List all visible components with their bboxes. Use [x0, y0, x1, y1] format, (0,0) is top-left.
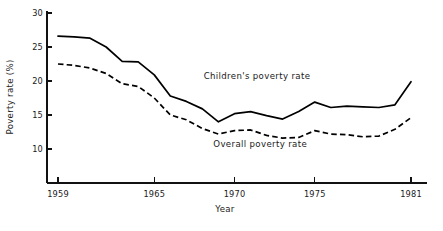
y-axis-ticks: 1015202530	[32, 8, 52, 154]
x-tick-label-1965: 1965	[143, 189, 165, 199]
annotation-overall-poverty-rate: Overall poverty rate	[213, 139, 307, 149]
annotation-childrens-poverty-rate: Children's poverty rate	[204, 71, 311, 81]
y-tick-label-25: 25	[32, 42, 43, 52]
y-tick-label-10: 10	[32, 144, 43, 154]
x-tick-label-1975: 1975	[304, 189, 326, 199]
series-lines	[58, 36, 411, 138]
chart-canvas: 1015202530 Poverty rate (%) 195919651970…	[0, 0, 443, 231]
poverty-rate-line-chart: 1015202530 Poverty rate (%) 195919651970…	[0, 0, 443, 231]
x-axis-ticks: 19591965197019751981	[47, 177, 422, 199]
x-axis-group: 19591965197019751981 Year	[47, 177, 427, 214]
x-tick-label-1970: 1970	[224, 189, 246, 199]
y-tick-label-15: 15	[32, 110, 43, 120]
y-axis-group: 1015202530 Poverty rate (%)	[5, 8, 52, 183]
x-tick-label-1959: 1959	[47, 189, 69, 199]
y-tick-label-30: 30	[32, 8, 43, 18]
y-axis-title: Poverty rate (%)	[5, 59, 15, 134]
x-tick-label-1981: 1981	[400, 189, 422, 199]
x-axis-title: Year	[214, 204, 235, 214]
y-tick-label-20: 20	[32, 76, 43, 86]
